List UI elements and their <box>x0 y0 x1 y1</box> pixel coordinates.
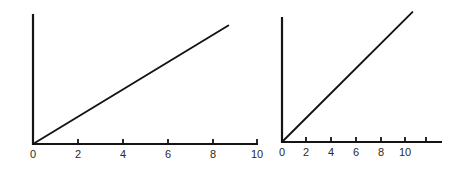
left-tick-label-4: 4 <box>120 148 126 160</box>
left-tick-label-8: 8 <box>210 148 216 160</box>
right-tick-label-0: 0 <box>279 146 285 158</box>
right-tick-label-6: 6 <box>353 146 359 158</box>
right-tick-label-10: 10 <box>399 146 411 158</box>
left-tick-label-2: 2 <box>75 148 81 160</box>
right-tick-label-8: 8 <box>378 146 384 158</box>
right-tick-label-4: 4 <box>328 146 334 158</box>
right-data-line <box>282 12 412 142</box>
right-chart-svg: 0 2 4 6 8 10 <box>264 0 464 171</box>
chart-panel-left: 0 2 4 6 8 10 <box>0 0 264 171</box>
chart-panel-right: 0 2 4 6 8 10 <box>264 0 464 171</box>
left-data-line <box>33 25 228 144</box>
left-tick-label-6: 6 <box>165 148 171 160</box>
figure-container: 0 2 4 6 8 10 0 2 4 6 <box>0 0 464 171</box>
left-tick-label-0: 0 <box>30 148 36 160</box>
left-chart-svg: 0 2 4 6 8 10 <box>0 0 264 171</box>
left-tick-label-10: 10 <box>251 148 263 160</box>
right-tick-label-2: 2 <box>303 146 309 158</box>
